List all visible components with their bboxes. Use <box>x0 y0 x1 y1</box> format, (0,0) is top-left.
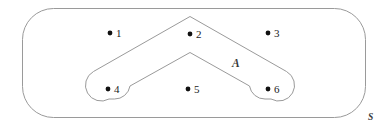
subset-a-label: A <box>232 58 240 70</box>
element-4-label: 4 <box>114 84 120 95</box>
element-dots-group <box>106 31 271 92</box>
element-3-label: 3 <box>274 28 280 39</box>
element-2-label: 2 <box>196 29 202 40</box>
diagram-canvas <box>0 0 389 126</box>
element-6-label: 6 <box>274 84 280 95</box>
set-diagram-figure: 123456 A S <box>0 0 389 126</box>
element-3-dot <box>266 31 271 36</box>
element-5-label: 5 <box>194 84 200 95</box>
element-6-dot <box>266 87 271 92</box>
element-1-dot <box>108 31 113 36</box>
element-4-dot <box>106 87 111 92</box>
element-1-label: 1 <box>116 28 122 39</box>
element-2-dot <box>188 32 193 37</box>
universal-set-label: S <box>368 113 373 123</box>
element-5-dot <box>186 87 191 92</box>
universal-set-boundary <box>23 9 366 118</box>
